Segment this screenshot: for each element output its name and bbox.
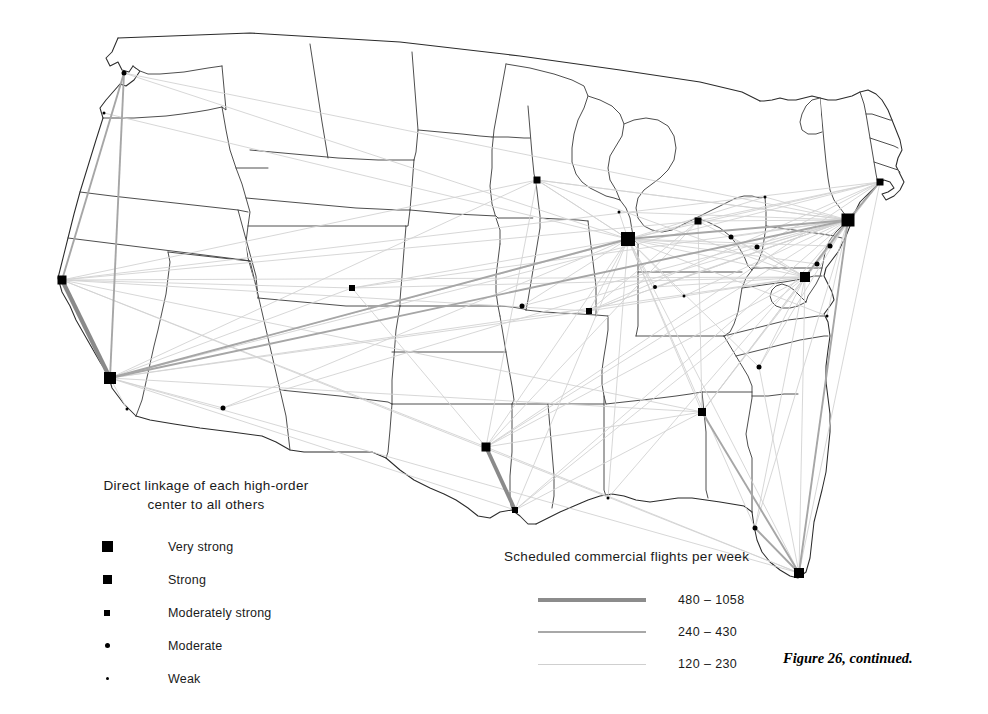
- city-marker: [103, 112, 106, 115]
- city-marker: [512, 507, 518, 513]
- linkage-legend-row: Moderately strong: [70, 596, 370, 629]
- linkage-legend-row: Very strong: [70, 530, 370, 563]
- city-marker: [221, 406, 226, 411]
- linkage-legend: Direct linkage of each high-order center…: [70, 476, 370, 695]
- city-marker: [842, 214, 855, 227]
- city-marker: [126, 408, 129, 411]
- square-marker-icon: [102, 541, 113, 552]
- city-marker: [815, 262, 820, 267]
- city-marker: [621, 232, 635, 246]
- flights-legend-label: 240 – 430: [678, 625, 737, 639]
- city-marker: [104, 372, 116, 384]
- linkage-legend-title-line2: center to all others: [147, 497, 264, 512]
- linkage-legend-label: Strong: [168, 573, 206, 587]
- circle-marker-icon: [106, 677, 109, 680]
- city-marker: [698, 408, 706, 416]
- flight-line-sample: [538, 664, 646, 665]
- flights-legend-swatch: [538, 631, 668, 633]
- city-marker: [482, 443, 491, 452]
- square-marker-icon: [104, 610, 110, 616]
- square-marker-icon: [103, 575, 112, 584]
- flights-legend-label: 120 – 230: [678, 657, 737, 671]
- flights-legend-swatch: [538, 664, 668, 665]
- city-marker: [826, 315, 829, 318]
- city-marker: [828, 244, 833, 249]
- linkage-legend-title: Direct linkage of each high-order center…: [70, 476, 342, 514]
- linkage-legend-row: Moderate: [70, 629, 370, 662]
- linkage-legend-title-line1: Direct linkage of each high-order: [103, 478, 308, 493]
- linkage-legend-swatch: [70, 643, 144, 648]
- city-marker: [753, 526, 758, 531]
- flight-line-sample: [538, 598, 646, 602]
- city-marker: [683, 295, 686, 298]
- figure-caption: Figure 26, continued.: [783, 650, 913, 667]
- city-marker: [607, 497, 610, 500]
- linkage-legend-label: Very strong: [168, 540, 233, 554]
- city-marker: [877, 179, 884, 186]
- city-marker: [618, 211, 621, 214]
- city-marker: [729, 235, 734, 240]
- flights-legend-row: 240 – 430: [504, 616, 834, 648]
- linkage-legend-row: Strong: [70, 563, 370, 596]
- flight-line-sample: [538, 631, 646, 633]
- linkage-legend-swatch: [70, 575, 144, 584]
- linkage-legend-label: Weak: [168, 672, 201, 686]
- linkage-legend-swatch: [70, 610, 144, 616]
- linkage-legend-rows: Very strongStrongModerately strongModera…: [70, 530, 370, 695]
- city-marker: [534, 177, 541, 184]
- linkage-legend-label: Moderately strong: [168, 606, 271, 620]
- figure-container: Direct linkage of each high-order center…: [0, 0, 988, 714]
- city-marker: [755, 245, 760, 250]
- flights-legend-row: 480 – 1058: [504, 584, 834, 616]
- city-marker: [757, 365, 762, 370]
- linkage-legend-row: Weak: [70, 662, 370, 695]
- city-marker: [122, 71, 127, 76]
- city-marker: [653, 285, 657, 289]
- flights-legend-swatch: [538, 598, 668, 602]
- flights-legend-label: 480 – 1058: [678, 593, 745, 607]
- linkage-legend-label: Moderate: [168, 639, 222, 653]
- city-marker: [349, 285, 355, 291]
- linkage-legend-swatch: [70, 677, 144, 680]
- city-marker: [695, 218, 702, 225]
- city-marker: [800, 272, 810, 282]
- linkage-legend-swatch: [70, 541, 144, 552]
- city-marker: [58, 276, 67, 285]
- city-marker: [520, 304, 525, 309]
- flights-legend-title: Scheduled commercial flights per week: [504, 549, 834, 564]
- circle-marker-icon: [105, 643, 110, 648]
- city-marker: [764, 196, 767, 199]
- city-marker: [586, 308, 592, 314]
